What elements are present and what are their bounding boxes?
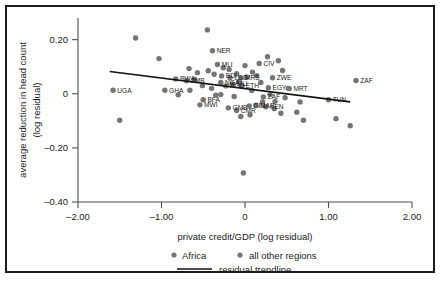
legend-label-trendline: residual trendline bbox=[219, 264, 291, 275]
data-point bbox=[187, 88, 192, 93]
data-point bbox=[242, 63, 247, 68]
legend-label-africa: Africa bbox=[182, 250, 207, 261]
legend-label-other-regions: all other regions bbox=[249, 250, 317, 261]
data-point bbox=[261, 94, 266, 99]
data-point bbox=[133, 35, 138, 40]
data-point-label: ZMB bbox=[191, 77, 206, 84]
data-point bbox=[205, 27, 210, 32]
data-point bbox=[301, 118, 306, 123]
data-point-label: MLI bbox=[222, 61, 233, 68]
y-axis-ticks: 0.200–0.20–0.40 bbox=[44, 34, 78, 207]
data-point-label: CIV bbox=[263, 60, 275, 67]
data-point bbox=[197, 102, 202, 107]
x-tick-label: 2.00 bbox=[403, 211, 422, 222]
data-point bbox=[206, 68, 211, 73]
data-point bbox=[270, 75, 275, 80]
data-point bbox=[211, 72, 216, 77]
x-tick-label: 0 bbox=[242, 211, 247, 222]
data-point bbox=[333, 116, 338, 121]
data-point bbox=[280, 68, 285, 73]
data-point-label: TUN bbox=[333, 96, 347, 103]
y-tick-label: –0.40 bbox=[44, 196, 68, 207]
data-point bbox=[238, 114, 243, 119]
y-axis-title: average reduction in head count (log res… bbox=[17, 42, 42, 178]
data-point bbox=[353, 78, 358, 83]
data-point bbox=[287, 86, 292, 91]
data-point-label: KEN bbox=[270, 103, 284, 110]
data-point bbox=[276, 58, 281, 63]
data-points-other-regions bbox=[117, 27, 353, 176]
data-point bbox=[297, 99, 302, 104]
data-point bbox=[186, 66, 191, 71]
chart-figure: 0.200–0.20–0.40 –2.00–1.0001.002.00 UGAG… bbox=[0, 0, 440, 290]
data-point bbox=[226, 105, 231, 110]
data-point bbox=[117, 118, 122, 123]
data-point bbox=[294, 109, 299, 114]
data-point bbox=[282, 95, 287, 100]
data-point-label: ZAF bbox=[268, 93, 280, 100]
y-axis-title-line1: average reduction in head count bbox=[17, 42, 28, 178]
data-point-label: MRT bbox=[293, 85, 307, 92]
data-point bbox=[256, 61, 261, 66]
y-tick-label: 0.20 bbox=[50, 34, 69, 45]
scatter-plot: 0.200–0.20–0.40 –2.00–1.0001.002.00 UGAG… bbox=[0, 0, 440, 290]
x-tick-label: –1.00 bbox=[150, 211, 174, 222]
data-point bbox=[265, 54, 270, 59]
data-point bbox=[156, 56, 161, 61]
chart-legend: Africa all other regions residual trendl… bbox=[171, 250, 316, 275]
x-tick-label: –2.00 bbox=[66, 211, 90, 222]
data-point-label: ZWE bbox=[277, 74, 292, 81]
x-axis-title: private credit/GDP (log residual) bbox=[178, 231, 313, 242]
data-point bbox=[278, 111, 283, 116]
data-point bbox=[162, 88, 167, 93]
data-point-label: GHA bbox=[169, 87, 184, 94]
data-point-label: NER bbox=[217, 47, 231, 54]
data-point-labels: UGAGHARWAZMBNERMLIBDILSONGAAGOMLIMRSETHC… bbox=[117, 47, 372, 114]
data-point-label: ZAF bbox=[360, 77, 372, 84]
data-point bbox=[348, 123, 353, 128]
data-point-label: MWI bbox=[204, 101, 218, 108]
data-point bbox=[241, 170, 246, 175]
data-point bbox=[195, 70, 200, 75]
data-point bbox=[219, 73, 224, 78]
data-point-label: EGY bbox=[273, 84, 288, 91]
data-point bbox=[209, 86, 214, 91]
data-point bbox=[110, 88, 115, 93]
x-tick-label: 1.00 bbox=[319, 211, 338, 222]
data-point bbox=[215, 62, 220, 67]
legend-marker-africa bbox=[171, 252, 176, 257]
y-axis-title-line2: (log residual) bbox=[31, 83, 42, 138]
x-axis-ticks: –2.00–1.0001.002.00 bbox=[66, 202, 421, 222]
data-point bbox=[210, 48, 215, 53]
data-point-label: MRS bbox=[245, 74, 260, 81]
legend-marker-other-regions bbox=[237, 252, 242, 257]
data-point-label: ETH bbox=[246, 82, 259, 89]
data-point bbox=[231, 94, 236, 99]
data-point bbox=[218, 80, 223, 85]
y-tick-label: 0 bbox=[63, 88, 68, 99]
y-tick-label: –0.20 bbox=[44, 142, 68, 153]
data-point bbox=[266, 85, 271, 90]
data-point-label: UGA bbox=[117, 87, 132, 94]
